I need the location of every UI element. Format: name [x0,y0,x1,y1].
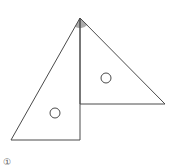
figure-label: ① [3,158,11,167]
right-triangle [80,18,165,104]
triangle-diagram [0,0,178,167]
left-triangle [11,18,80,140]
right-triangle-circle [101,73,111,83]
left-triangle-circle [50,108,60,118]
